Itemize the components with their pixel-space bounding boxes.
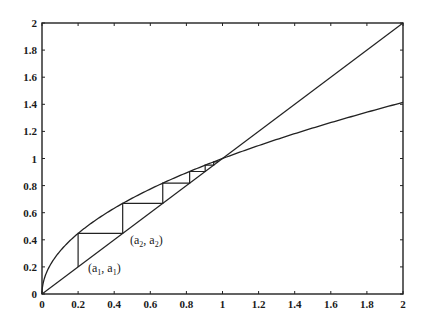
- y-tick-label: 1.4: [23, 98, 37, 110]
- annotation-a2: (a2, a2): [130, 233, 163, 249]
- y-tick-label: 0.2: [23, 261, 37, 273]
- y-tick-label: 2: [32, 17, 38, 29]
- x-tick-label: 1.4: [288, 298, 302, 310]
- x-tick-label: 0.2: [71, 298, 85, 310]
- x-tick-label: 1: [220, 298, 226, 310]
- y-tick-label: 0: [32, 288, 38, 300]
- y-tick-label: 0.4: [23, 234, 37, 246]
- x-tick-label: 0.6: [143, 298, 157, 310]
- annotation-a1: (a1, a1): [88, 261, 121, 277]
- x-tick-label: 2: [400, 298, 406, 310]
- x-tick-label: 1.6: [324, 298, 338, 310]
- cobweb-plot: 00.20.40.60.811.21.41.61.8200.20.40.60.8…: [0, 0, 429, 331]
- y-tick-label: 0.6: [23, 207, 37, 219]
- y-tick-label: 1.2: [23, 125, 37, 137]
- y-tick-label: 0.8: [23, 180, 37, 192]
- x-tick-label: 0: [39, 298, 45, 310]
- x-tick-label: 1.2: [252, 298, 266, 310]
- y-tick-label: 1: [32, 153, 38, 165]
- y-tick-label: 1.6: [23, 71, 37, 83]
- x-tick-label: 0.8: [180, 298, 194, 310]
- plot-curves: [42, 23, 403, 294]
- x-tick-label: 0.4: [107, 298, 121, 310]
- x-tick-label: 1.8: [360, 298, 374, 310]
- y-tick-label: 1.8: [23, 44, 37, 56]
- tick-labels: 00.20.40.60.811.21.41.61.8200.20.40.60.8…: [23, 17, 406, 310]
